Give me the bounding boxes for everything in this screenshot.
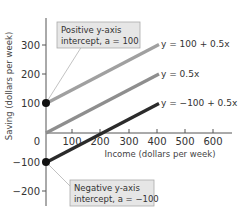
x-tick-label: 500 — [175, 136, 194, 147]
y-tick-label: −100 — [13, 157, 40, 168]
callout-positive-intercept: Positive y-axis intercept, a = 100 — [57, 22, 140, 48]
line-positive-intercept — [46, 45, 159, 104]
x-tick-label: 300 — [119, 136, 138, 147]
callout-leader-negative — [46, 162, 70, 186]
y-tick-label: 100 — [21, 98, 40, 109]
origin-label: 0 — [34, 136, 40, 147]
linear-equation-chart: 300 200 100 0 −100 −200 100 200 300 400 … — [0, 0, 244, 224]
intercept-point-negative — [42, 158, 50, 166]
callout-negative-line1: Negative y-axis — [74, 183, 140, 193]
x-ticks — [72, 129, 213, 133]
intercept-point-positive — [42, 99, 50, 107]
y-tick-label: 300 — [21, 40, 40, 51]
equation-label-bottom: y = −100 + 0.5x — [161, 98, 238, 108]
x-tick-label: 600 — [203, 136, 222, 147]
y-tick-label: 200 — [21, 69, 40, 80]
x-tick-label: 400 — [147, 136, 166, 147]
equation-label-top: y = 100 + 0.5x — [161, 39, 230, 49]
callout-positive-line2: intercept, a = 100 — [61, 36, 139, 46]
y-ticks — [42, 45, 46, 191]
equation-label-mid: y = 0.5x — [161, 69, 200, 79]
callout-negative-line2: intercept, a = −100 — [74, 194, 159, 204]
x-axis-title: Income (dollars per week) — [105, 149, 216, 159]
line-zero-intercept — [46, 74, 159, 133]
callout-negative-intercept: Negative y-axis intercept, a = −100 — [70, 180, 159, 206]
callout-positive-line1: Positive y-axis — [61, 25, 122, 35]
y-axis-title: Saving (dollars per week) — [4, 32, 14, 140]
y-tick-label: −200 — [13, 186, 40, 197]
